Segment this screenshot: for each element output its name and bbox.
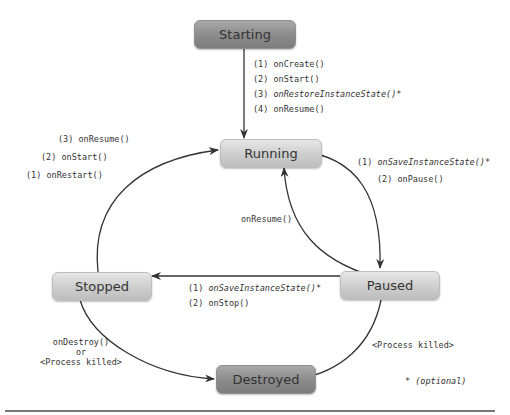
activity-lifecycle-diagram: Starting Running Stopped Paused Destroye…	[0, 0, 510, 415]
state-starting-label: Starting	[219, 27, 271, 42]
footnote-optional: * (optional)	[405, 376, 466, 387]
state-running-label: Running	[244, 146, 297, 161]
label-stop-onsaveinstancestate: (1) onSaveInstanceState()*	[188, 283, 321, 294]
state-starting: Starting	[194, 20, 296, 49]
label-stopped-process-killed: <Process killed>	[36, 357, 126, 368]
bottom-separator	[5, 410, 495, 412]
label-onstop: (2) onStop()	[188, 298, 249, 309]
label-onrestoreinstancestate: (3) onRestoreInstanceState()*	[253, 89, 401, 100]
state-destroyed: Destroyed	[216, 365, 316, 394]
label-restart-onstart: (2) onStart()	[41, 152, 108, 163]
state-paused-label: Paused	[367, 278, 413, 293]
arrow-stopped-to-running	[97, 150, 218, 272]
state-stopped-label: Stopped	[75, 279, 129, 294]
state-stopped: Stopped	[52, 272, 152, 301]
label-oncreate: (1) onCreate()	[253, 59, 325, 70]
state-destroyed-label: Destroyed	[233, 372, 300, 387]
label-paused-onresume: onResume()	[241, 214, 292, 225]
state-running: Running	[220, 139, 322, 168]
label-onpause: (2) onPause()	[377, 174, 444, 185]
label-onstart: (2) onStart()	[253, 74, 320, 85]
arrow-paused-to-running	[284, 168, 372, 276]
label-pause-onsaveinstancestate: (1) onSaveInstanceState()*	[357, 157, 490, 168]
label-onrestart: (1) onRestart()	[26, 170, 103, 181]
arrow-running-to-paused	[296, 151, 380, 268]
label-restart-onresume: (3) onResume()	[58, 134, 130, 145]
label-onresume-start: (4) onResume()	[253, 104, 325, 115]
state-paused: Paused	[340, 271, 440, 300]
label-paused-process-killed: <Process killed>	[372, 340, 454, 351]
